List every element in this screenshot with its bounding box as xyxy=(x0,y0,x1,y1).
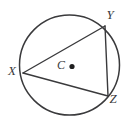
vertex-label-y: Y xyxy=(106,7,115,22)
side-yz xyxy=(105,26,108,96)
geometry-figure: C X Y Z xyxy=(0,0,133,127)
side-zx xyxy=(23,73,108,96)
center-point-dot xyxy=(69,64,74,69)
geometry-canvas: C X Y Z xyxy=(0,0,133,127)
vertex-label-z: Z xyxy=(109,91,117,106)
vertex-label-x: X xyxy=(7,63,17,78)
center-label-c: C xyxy=(57,58,66,72)
